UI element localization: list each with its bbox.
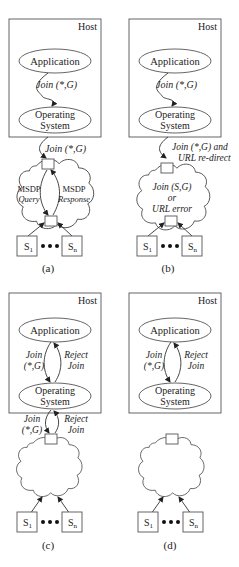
rp-router bbox=[165, 216, 177, 226]
panel-c: Host Application Operating System Join (… bbox=[9, 293, 101, 552]
ellipsis-dots bbox=[41, 244, 59, 248]
os-label-line2: System bbox=[40, 120, 70, 131]
host-label: Host bbox=[78, 295, 97, 306]
msdp-query-line2: Query bbox=[18, 194, 39, 204]
application-label: Application bbox=[30, 325, 80, 336]
outer-msg-line1: Join (*,G) and bbox=[172, 142, 228, 153]
inner-join-line1: Join bbox=[146, 350, 163, 360]
host-label: Host bbox=[78, 21, 97, 32]
source1-arrow bbox=[30, 497, 42, 514]
cloud-text-line2: or bbox=[168, 193, 177, 203]
inner-reject-line2: Join bbox=[68, 361, 85, 371]
os-label-line1: Operating bbox=[155, 385, 195, 396]
panel-d: Host Application Operating System Join (… bbox=[129, 293, 221, 552]
caption-c: (c) bbox=[42, 539, 55, 552]
outer-reject-line2: Join bbox=[68, 425, 85, 435]
os-label-line2: System bbox=[160, 396, 190, 407]
cloud-text-line3: URL error bbox=[152, 204, 192, 214]
network-cloud bbox=[139, 437, 205, 496]
host-label: Host bbox=[198, 21, 217, 32]
join-arrow-os-to-router bbox=[160, 137, 169, 158]
msdp-response-line1: MSDP bbox=[62, 184, 85, 194]
panel-a: Host Application Operating System Join (… bbox=[9, 19, 101, 275]
os-label-line2: System bbox=[160, 120, 190, 131]
outer-msg-line2: URL re-direct bbox=[178, 153, 231, 163]
msdp-query-line1: MSDP bbox=[17, 184, 40, 194]
inner-reject-line1: Reject bbox=[63, 350, 88, 360]
source1-arrow bbox=[28, 223, 44, 236]
os-label-line1: Operating bbox=[155, 109, 195, 120]
ellipsis-dots bbox=[162, 520, 180, 524]
inner-reject-line2: Join bbox=[188, 361, 205, 371]
sourcen-arrow bbox=[58, 497, 70, 514]
reject-arrow-router-to-os bbox=[54, 411, 59, 433]
application-label: Application bbox=[150, 56, 200, 67]
edge-router bbox=[45, 434, 57, 444]
inner-reject-line1: Reject bbox=[183, 350, 208, 360]
caption-b: (b) bbox=[162, 262, 175, 275]
edge-router bbox=[161, 163, 173, 173]
application-label: Application bbox=[30, 56, 80, 67]
edge-router bbox=[166, 434, 178, 444]
join-arrow-os-to-router bbox=[45, 410, 51, 433]
inner-join-line1: Join bbox=[26, 350, 43, 360]
inner-join-label: Join (*,G) bbox=[36, 79, 78, 91]
os-label-line1: Operating bbox=[35, 385, 75, 396]
outer-join-line2: (*,G) bbox=[22, 425, 42, 436]
os-label-line2: System bbox=[40, 396, 70, 407]
source1-arrow bbox=[151, 497, 163, 514]
sourcen-arrow bbox=[179, 497, 191, 514]
host-label: Host bbox=[198, 295, 217, 306]
inner-join-line2: (*,G) bbox=[144, 361, 164, 372]
edge-router bbox=[42, 159, 54, 169]
caption-a: (a) bbox=[42, 262, 55, 275]
cloud-text-line1: Join (S,G) bbox=[152, 182, 191, 193]
inner-join-label: Join (*,G) bbox=[156, 79, 198, 91]
os-label-line1: Operating bbox=[35, 109, 75, 120]
application-label: Application bbox=[150, 325, 200, 336]
caption-d: (d) bbox=[164, 539, 177, 552]
ellipsis-dots bbox=[161, 244, 179, 248]
msdp-response-line2: Response bbox=[57, 194, 90, 204]
outer-join-label: Join (*,G) bbox=[45, 143, 87, 155]
rp-router bbox=[45, 216, 57, 226]
network-cloud bbox=[17, 437, 83, 496]
figure-canvas: Host Application Operating System Join (… bbox=[0, 0, 239, 567]
ellipsis-dots bbox=[41, 520, 59, 524]
outer-reject-line1: Reject bbox=[63, 414, 88, 424]
panel-b: Host Application Operating System Join (… bbox=[129, 19, 231, 275]
outer-join-line1: Join bbox=[24, 414, 41, 424]
inner-join-line2: (*,G) bbox=[24, 361, 44, 372]
